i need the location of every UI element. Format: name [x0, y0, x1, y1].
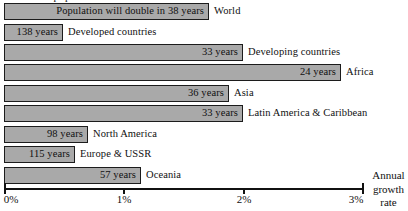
bar: 33 years [4, 44, 243, 61]
doubling-time-bar-chart: world population Population will double … [0, 0, 408, 211]
x-axis-end-cap [362, 183, 364, 190]
bar-value-label: 98 years [47, 129, 87, 140]
bar-category-label: Africa [341, 64, 373, 81]
bar: 57 years [4, 167, 141, 184]
x-axis-line [4, 188, 363, 190]
bar-category-label: Oceania [141, 167, 181, 184]
plot-area: Population will double in 38 yearsWorld1… [0, 0, 408, 211]
bar: Population will double in 38 years [4, 3, 209, 20]
bar-category-label: Europe & USSR [75, 146, 151, 163]
bar: 115 years [4, 146, 75, 163]
bar: 36 years [4, 85, 229, 102]
axis-caption-line-1: Annual [369, 169, 408, 183]
bar-category-label: Latin America & Caribbean [243, 105, 367, 122]
bar-value-label: 33 years [202, 108, 242, 119]
axis-caption-line-2: growth [369, 183, 408, 197]
x-axis-start-cap [4, 183, 6, 190]
x-axis-tick-label: 1% [117, 194, 132, 205]
bar-category-label: Developing countries [243, 44, 340, 61]
bar-value-label: 138 years [17, 27, 62, 38]
x-axis-caption: Annual growth rate [369, 169, 408, 210]
bar: 24 years [4, 64, 341, 81]
bar-value-label: Population will double in 38 years [56, 6, 208, 17]
x-axis-tick-label: 0% [4, 194, 19, 205]
bar-category-label: Developed countries [63, 24, 157, 41]
bar-value-label: 36 years [188, 88, 228, 99]
bar-value-label: 33 years [202, 47, 242, 58]
bar-category-label: Asia [229, 85, 254, 102]
bar-category-label: North America [88, 126, 157, 143]
bar-category-label: World [209, 3, 240, 20]
bar-value-label: 24 years [300, 67, 340, 78]
bar: 98 years [4, 126, 88, 143]
bar-value-label: 57 years [100, 170, 140, 181]
bar: 138 years [4, 24, 63, 41]
axis-caption-line-3: rate [369, 196, 408, 210]
bar-value-label: 115 years [29, 149, 74, 160]
x-axis-tick-label: 3% [349, 194, 364, 205]
x-axis-tick-label: 2% [237, 194, 252, 205]
bar: 33 years [4, 105, 243, 122]
